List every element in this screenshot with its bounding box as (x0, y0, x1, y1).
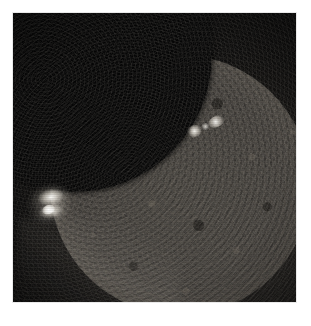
page-root (0, 0, 311, 326)
vignette-layer (13, 13, 296, 302)
image-caption (13, 304, 296, 324)
solar-eclipse-image (13, 13, 296, 302)
